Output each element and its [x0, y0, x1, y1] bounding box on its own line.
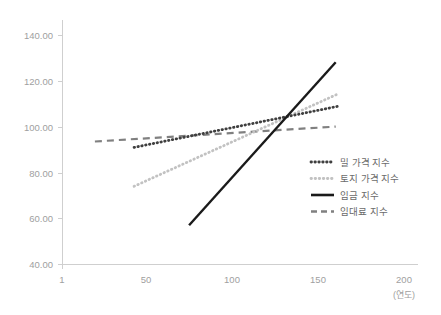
x-tick-label: 150 — [310, 274, 326, 285]
y-tick-label: 140.00 — [24, 30, 53, 41]
legend-item-wage[interactable]: 임금 지수 — [311, 190, 379, 201]
x-axis-tick-labels: 1 50 100 150 200 — [59, 274, 412, 285]
legend-item-wheat[interactable]: 밀 가격 지수 — [311, 157, 390, 168]
y-tick-label: 80.00 — [29, 168, 53, 179]
y-axis-ticks — [58, 36, 63, 265]
x-axis-caption: (연도) — [393, 290, 415, 300]
series-line-wheat — [134, 106, 339, 147]
series-line-rent — [95, 127, 336, 142]
legend-label: 토지 가격 지수 — [340, 173, 399, 184]
legend-label: 임금 지수 — [340, 190, 379, 201]
y-tick-label: 120.00 — [24, 76, 53, 87]
chart-container: 140.00 120.00 100.00 80.00 60.00 40.00 1… — [0, 0, 441, 315]
y-tick-label: 100.00 — [24, 122, 53, 133]
chart-legend: 밀 가격 지수 토지 가격 지수 임금 지수 임대료 지수 — [311, 157, 399, 218]
y-tick-label: 60.00 — [29, 213, 53, 224]
series-line-wage — [189, 62, 336, 225]
x-tick-label: 100 — [224, 274, 240, 285]
x-tick-label: 200 — [396, 274, 412, 285]
x-tick-label: 1 — [59, 274, 64, 285]
legend-item-rent[interactable]: 임대료 지수 — [311, 206, 388, 217]
legend-item-land[interactable]: 토지 가격 지수 — [311, 173, 399, 184]
legend-label: 밀 가격 지수 — [340, 157, 390, 168]
y-tick-label: 40.00 — [29, 259, 53, 270]
legend-label: 임대료 지수 — [340, 206, 388, 217]
line-chart: 140.00 120.00 100.00 80.00 60.00 40.00 1… — [0, 0, 441, 315]
y-axis-tick-labels: 140.00 120.00 100.00 80.00 60.00 40.00 — [24, 30, 53, 270]
x-tick-label: 50 — [141, 274, 152, 285]
